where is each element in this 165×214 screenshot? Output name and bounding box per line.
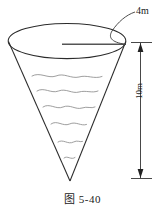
height-label: 10m [135,83,144,99]
water-wave-line [43,106,95,109]
dimension-arrow-down-icon [138,169,144,178]
dimension-arrow-up-icon [138,43,144,52]
cone-left-side [9,42,71,182]
cone-right-side [70,42,126,182]
cone-top-rim-ellipse [8,23,126,58]
water-wave-line [64,157,75,158]
diameter-leader-line [110,12,135,45]
water-wave-line [58,141,83,143]
water-wave-line [32,75,102,78]
figure-caption: 图 5-40 [0,190,165,206]
water-wave-line [51,123,87,125]
diameter-label: 4m [136,6,149,16]
figure-container: 4m 10m 图 5-40 [0,0,165,214]
water-wave-line [37,90,98,93]
cone-diagram-svg [0,0,165,214]
